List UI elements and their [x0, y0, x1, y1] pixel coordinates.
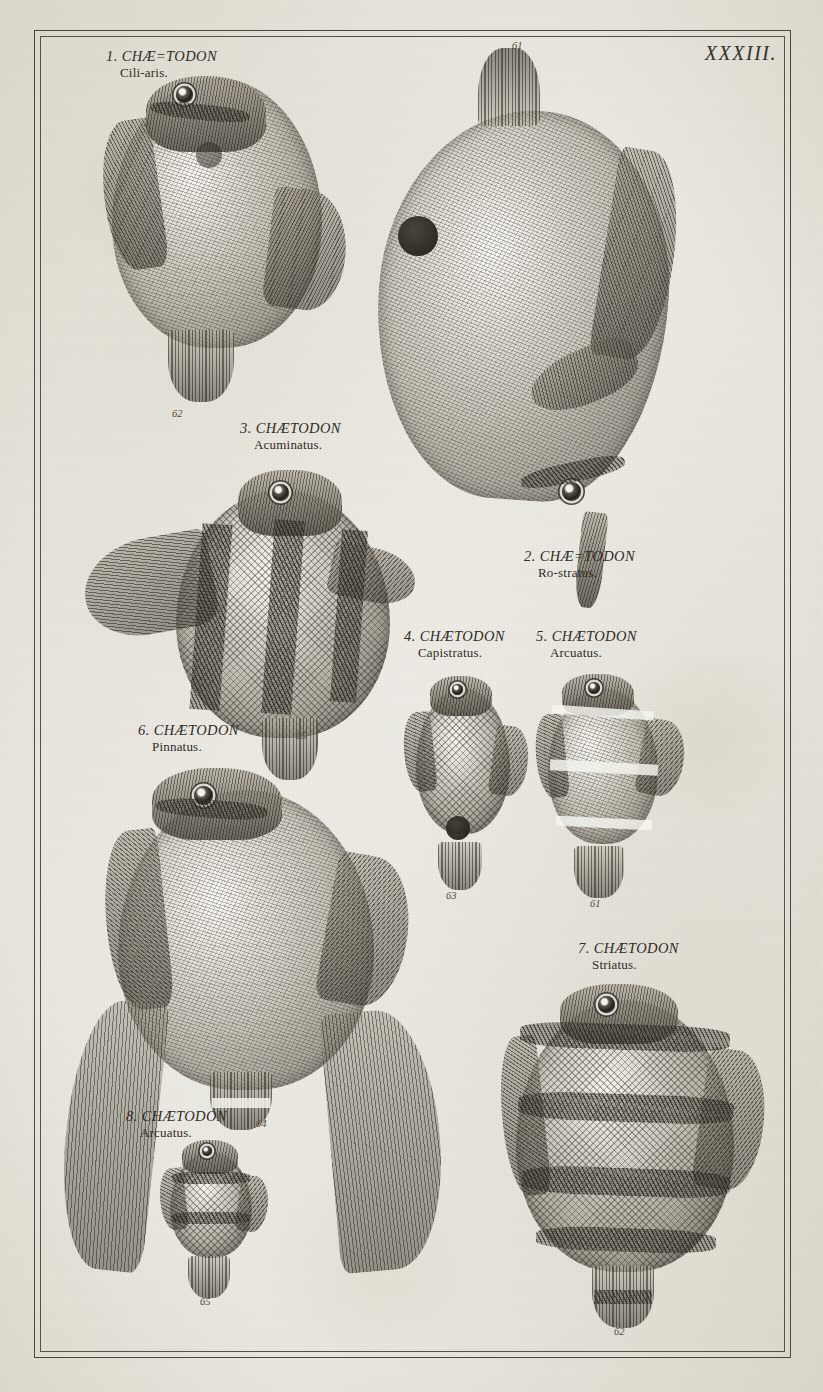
- figure-6-caption-line1: 6. CHÆTODON: [138, 722, 328, 739]
- fish-4-eye: [452, 684, 463, 695]
- figure-2-caption-line1: 2. CHÆ=TODON: [524, 548, 724, 565]
- fish-8-eye: [202, 1146, 212, 1156]
- fish-5-engraving-number: 61: [590, 898, 601, 909]
- figure-3-caption-line2: Acuminatus.: [240, 437, 440, 452]
- figure-7-caption-line2: Striatus.: [578, 957, 778, 972]
- figure-6-caption-line2: Pinnatus.: [138, 739, 328, 754]
- fish-6-caudal-white-band: [212, 1098, 270, 1108]
- fish-1-caudal-fin: [168, 330, 234, 402]
- fish-2-caudal-fin: [478, 48, 540, 126]
- fish-8-stripe-2: [172, 1212, 250, 1224]
- figure-3-caption-line1: 3. CHÆTODON: [240, 420, 440, 437]
- fish-8-caudal-fin: [188, 1256, 230, 1298]
- fish-4-ocellus-spot: [446, 816, 470, 840]
- figure-8-caption-line1: 8. CHÆTODON: [126, 1108, 316, 1125]
- fish-7-engraving-number: 62: [614, 1326, 625, 1337]
- engraving-plate: XXXIII. 62 1. CHÆ=TODON Cili-aris. 61 2.…: [0, 0, 823, 1392]
- figure-7-caption: 7. CHÆTODON Striatus.: [578, 940, 778, 972]
- figure-2-caption: 2. CHÆ=TODON Ro-stratus.: [524, 548, 724, 580]
- fish-8-engraving-number: 65: [200, 1296, 211, 1307]
- figure-5-caption-line1: 5. CHÆTODON: [536, 628, 726, 645]
- plate-number: XXXIII.: [705, 42, 777, 65]
- figure-7-caption-line1: 7. CHÆTODON: [578, 940, 778, 957]
- figure-1-caption-line2: Cili-aris.: [106, 65, 336, 80]
- figure-8-caption-line2: Arcuatus.: [126, 1125, 316, 1140]
- fish-2-eye: [562, 482, 581, 501]
- fish-2-engraving-number: 61: [512, 40, 523, 51]
- fish-1-pectoral-base: [196, 142, 222, 168]
- figure-1-caption-line1: 1. CHÆ=TODON: [106, 48, 336, 65]
- figure-2-caption-line2: Ro-stratus.: [524, 565, 724, 580]
- figure-8-caption: 8. CHÆTODON Arcuatus.: [126, 1108, 316, 1140]
- fish-1-eye: [176, 86, 193, 103]
- fish-7-caudal-band: [594, 1290, 652, 1304]
- figure-3-caption: 3. CHÆTODON Acuminatus.: [240, 420, 440, 452]
- fish-7-eye: [598, 996, 615, 1013]
- figure-1-caption: 1. CHÆ=TODON Cili-aris.: [106, 48, 336, 80]
- fish-8-stripe-1: [172, 1172, 250, 1184]
- figure-5-caption-line2: Arcuatus.: [536, 645, 726, 660]
- fish-4-caudal-fin: [438, 842, 482, 890]
- fish-5-caudal-fin: [574, 846, 624, 898]
- fish-4-engraving-number: 63: [446, 890, 457, 901]
- fish-1-engraving-number: 62: [172, 408, 183, 419]
- figure-5-caption: 5. CHÆTODON Arcuatus.: [536, 628, 726, 660]
- fish-4-head: [430, 676, 492, 716]
- fish-5-eye: [588, 682, 600, 694]
- fish-2-ocellus-spot: [398, 216, 438, 256]
- figure-6-caption: 6. CHÆTODON Pinnatus.: [138, 722, 328, 754]
- fish-3-eye: [272, 484, 289, 501]
- fish-8-head: [182, 1140, 238, 1174]
